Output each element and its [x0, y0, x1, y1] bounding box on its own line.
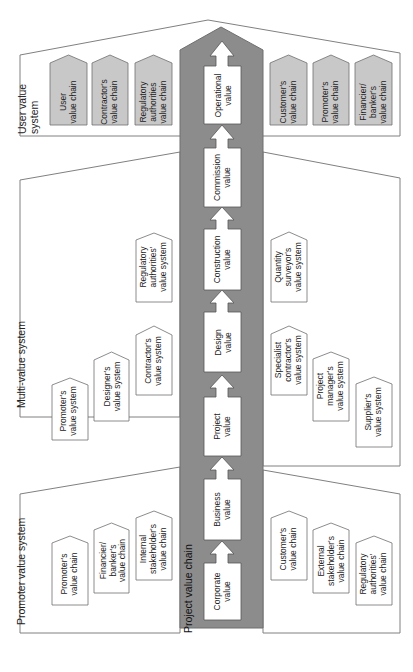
- promoter-chain-label: Customer's value chain: [271, 521, 307, 577]
- user-chain-label: Customer's value chain: [271, 72, 307, 132]
- promoter-chain-label: Promoter's value chain: [52, 546, 88, 602]
- multi-value-system-label: Multi-value system: [13, 278, 29, 408]
- promoter-value-system-label: Promoter value system: [13, 495, 29, 625]
- project-value-chain-label: Project value chain: [180, 513, 196, 633]
- stage-commission-label: Commission value: [204, 148, 241, 207]
- multi-system-label: Quantity surveyor's value system: [271, 239, 307, 295]
- stage-operational-label: Operational value: [204, 67, 241, 125]
- stage-design-label: Design value: [204, 313, 241, 373]
- promoter-chain-label: Regulatory authorities' value chain: [356, 546, 392, 602]
- value-systems-diagram: User value system Multi-value system Pro…: [0, 0, 413, 672]
- promoter-chain-label: External stakeholder's value chain: [314, 532, 350, 590]
- multi-system-label: Regulatory authorities' value system: [136, 239, 172, 295]
- multi-system-label: Project manager's value system: [313, 358, 349, 414]
- promoter-chain-label: Financier/ banker's value chain: [95, 532, 130, 590]
- stage-project-label: Project value: [204, 397, 241, 456]
- stage-construction-label: Construction value: [204, 229, 241, 290]
- multi-system-label: Specialist contractor's value system: [271, 332, 307, 388]
- stage-corporate-label: Corporate value: [204, 563, 241, 620]
- multi-system-label: Designer's value system: [94, 359, 129, 415]
- user-chain-label: Regulatory authorities value chain: [136, 72, 172, 132]
- multi-system-label: Promoter's value system: [51, 384, 87, 438]
- user-chain-label: Contractor's value chain: [92, 72, 128, 132]
- stage-business-label: Business value: [204, 479, 241, 540]
- promoter-chain-label: Internal stakeholder's value chain: [136, 521, 172, 577]
- multi-system-label: Contractor's value system: [136, 333, 172, 389]
- user-value-system-label: User value system: [13, 60, 43, 134]
- multi-system-label: Supplier's value system: [356, 384, 392, 440]
- user-chain-label: User value chain: [51, 72, 87, 132]
- user-chain-label: Promoter's value chain: [313, 72, 349, 132]
- user-chain-label: Financier/ banker's value chain: [356, 72, 392, 132]
